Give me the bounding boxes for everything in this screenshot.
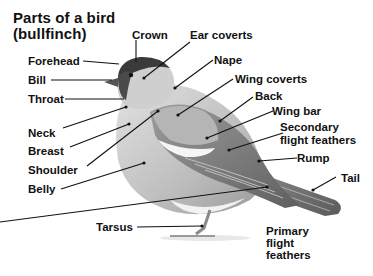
label-tail: Tail <box>341 172 360 184</box>
label-nape: Nape <box>214 54 242 66</box>
label-wing-coverts: Wing coverts <box>235 73 307 85</box>
label-breast: Breast <box>28 145 64 157</box>
title-line-1: Parts of a bird <box>13 10 115 26</box>
label-primary-2: flight <box>266 237 294 249</box>
label-crown: Crown <box>132 29 168 41</box>
bill-shape <box>104 78 118 87</box>
label-throat: Throat <box>28 93 64 105</box>
label-ear-coverts: Ear coverts <box>190 29 253 41</box>
title-line-2: (bullfinch) <box>13 26 115 42</box>
label-primary-3: feathers <box>266 249 311 261</box>
label-belly: Belly <box>28 183 56 195</box>
label-secondary-2: flight feathers <box>280 134 356 146</box>
label-neck: Neck <box>28 127 56 139</box>
label-wing-bar: Wing bar <box>272 105 321 117</box>
label-secondary-1: Secondary <box>280 121 339 133</box>
label-rump: Rump <box>297 152 330 164</box>
label-back: Back <box>255 90 283 102</box>
eye <box>129 73 133 77</box>
label-bill: Bill <box>28 74 46 86</box>
label-forehead: Forehead <box>28 55 80 67</box>
label-shoulder: Shoulder <box>28 164 78 176</box>
label-tarsus: Tarsus <box>96 221 133 233</box>
label-primary-1: Primary <box>266 225 309 237</box>
diagram-title: Parts of a bird (bullfinch) <box>13 10 115 42</box>
bird-anatomy-diagram: Parts of a bird (bullfinch) Crown Ear co… <box>0 0 373 276</box>
